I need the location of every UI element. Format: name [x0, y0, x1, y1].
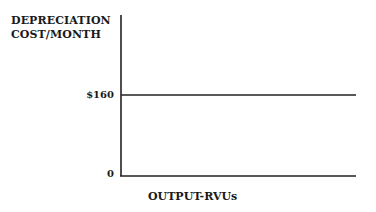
chart-plot	[0, 0, 376, 212]
x-axis-label: OUTPUT-RVUs	[148, 190, 237, 203]
